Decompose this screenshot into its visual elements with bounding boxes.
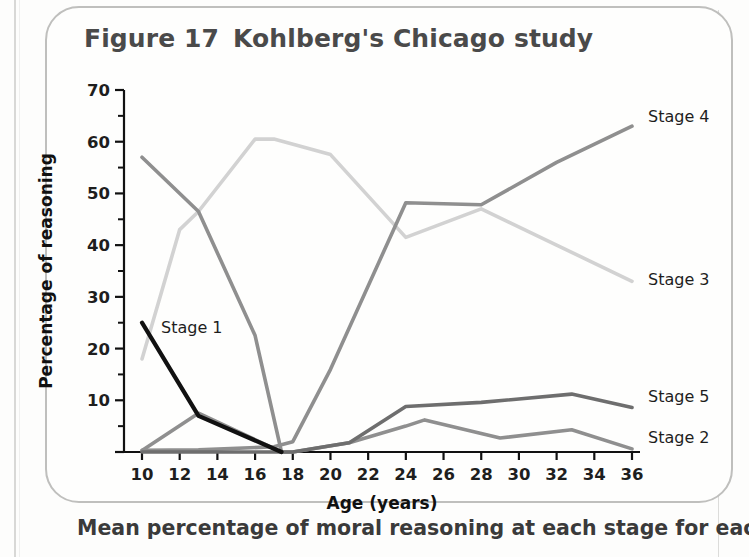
line-chart: 1020304050607010121416182022242628303234… <box>0 0 749 557</box>
series-line-stage-1 <box>142 323 282 452</box>
x-axis-title: Age (years) <box>327 493 438 513</box>
series-label-stage-4: Stage 4 <box>648 107 710 126</box>
x-tick-label: 10 <box>131 465 154 484</box>
series-label-stage-1: Stage 1 <box>161 318 223 337</box>
x-tick-label: 18 <box>281 465 304 484</box>
x-tick-label: 32 <box>545 465 568 484</box>
x-tick-label: 24 <box>394 465 417 484</box>
x-tick-label: 22 <box>357 465 380 484</box>
x-tick-label: 34 <box>583 465 606 484</box>
x-tick-label: 12 <box>168 465 191 484</box>
x-tick-label: 28 <box>470 465 493 484</box>
series-label-stage-2: Stage 2 <box>648 428 710 447</box>
series-line-stage-2-descending <box>142 157 282 452</box>
series-line-stage-4 <box>142 126 632 450</box>
y-tick-label: 30 <box>87 288 110 307</box>
y-tick-label: 40 <box>87 236 110 255</box>
x-tick-label: 14 <box>206 465 229 484</box>
y-axis-title: Percentage of reasoning <box>36 153 56 389</box>
y-tick-label: 60 <box>87 133 110 152</box>
x-tick-label: 36 <box>621 465 644 484</box>
y-tick-label: 50 <box>87 184 110 203</box>
figure-caption: Mean percentage of moral reasoning at ea… <box>77 516 737 540</box>
x-tick-label: 30 <box>507 465 530 484</box>
y-tick-label: 10 <box>87 391 110 410</box>
y-tick-label: 70 <box>87 81 110 100</box>
series-label-stage-5: Stage 5 <box>648 387 710 406</box>
x-tick-label: 16 <box>244 465 267 484</box>
y-tick-label: 20 <box>87 340 110 359</box>
figure-page: Figure 17Kohlberg's Chicago study 102030… <box>0 0 749 557</box>
series-label-stage-3: Stage 3 <box>648 270 710 289</box>
x-tick-label: 20 <box>319 465 342 484</box>
x-tick-label: 26 <box>432 465 455 484</box>
